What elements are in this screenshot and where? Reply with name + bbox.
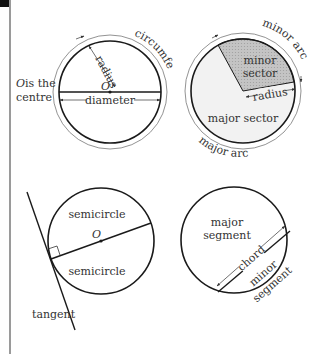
- centre-note-line2: centre: [16, 91, 52, 104]
- centre-note-line1: O: [16, 77, 25, 90]
- centre-note-is-the: is the: [25, 77, 56, 90]
- minor-sector-label-2: sector: [243, 67, 278, 80]
- centre-O-label-3: O: [92, 228, 101, 241]
- major-segment-label-1: major: [211, 216, 244, 229]
- diagram-canvas: radius diameter O circumference O O is t…: [0, 0, 320, 354]
- panel-circle-basic: radius diameter O circumference O O is t…: [0, 0, 177, 149]
- circle-parts-diagram: radius diameter O circumference O O is t…: [0, 0, 320, 354]
- centre-O-label: O: [101, 80, 110, 93]
- panel-chord-segments: chord major segment minor segment: [181, 187, 295, 305]
- tangent-label: tangent: [32, 308, 76, 321]
- minor-sector-label-1: minor: [244, 54, 278, 67]
- major-segment-label-2: segment: [203, 229, 251, 242]
- semicircle-bottom-label: semicircle: [68, 265, 125, 278]
- panel-sectors-arcs: minor sector radius major sector minor a…: [185, 16, 311, 160]
- major-sector-label: major sector: [208, 112, 279, 125]
- semicircle-top-label: semicircle: [68, 208, 125, 221]
- diameter-label: diameter: [85, 94, 136, 107]
- panel-semicircle-tangent: O semicircle semicircle tangent: [27, 188, 154, 330]
